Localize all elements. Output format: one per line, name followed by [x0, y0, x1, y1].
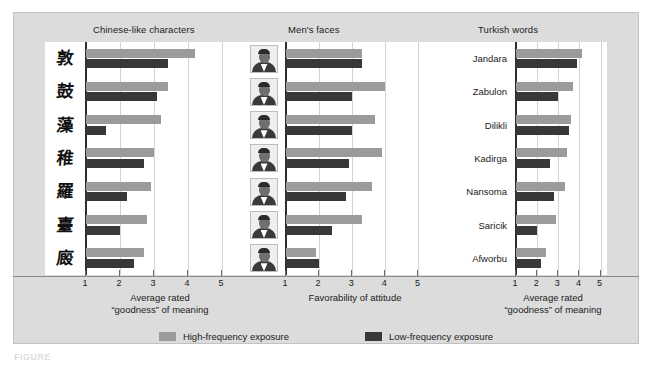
x-tick-label-turkish-5: 5: [597, 278, 602, 288]
mens-face-photo-4: [241, 142, 285, 175]
chinese-character-3: 藻: [45, 109, 85, 142]
chinese-character-glyph-icon: 臺: [44, 217, 86, 234]
bar-chinese-1-low: [86, 59, 168, 68]
chinese-character-glyph-icon: 廄: [44, 250, 86, 267]
category-label-nansoma: Nansoma: [437, 175, 515, 208]
x-tick-chinese-3: [153, 270, 154, 276]
bar-faces-2-low: [286, 92, 352, 101]
x-tick-label-faces-2: 2: [316, 278, 321, 288]
face-portrait-icon: [250, 45, 278, 73]
x-tick-label-turkish-4: 4: [576, 278, 581, 288]
bar-faces-5-high: [286, 182, 372, 191]
chinese-character-glyph-icon: 鼓: [44, 83, 86, 100]
x-tick-label-turkish-2: 2: [534, 278, 539, 288]
x-tick-turkish-3: [557, 270, 558, 276]
panel-title-chinese: Chinese-like characters: [93, 24, 195, 35]
mens-face-photo-2: [241, 75, 285, 108]
category-column-turkish: JandaraZabulonDilikliKadirgaNansomaSaric…: [437, 42, 515, 275]
turkish-word-label: Afworbu: [437, 253, 515, 264]
bar-chinese-6-low: [86, 226, 120, 235]
bar-chinese-1-high: [86, 49, 195, 58]
bar-group: [286, 42, 429, 75]
axis-caption-chinese: Average rated “goodness” of meaning: [111, 292, 208, 316]
bar-chinese-5-low: [86, 192, 127, 201]
category-label-kadirga: Kadirga: [437, 142, 515, 175]
axis-caption-turkish-line2: “goodness” of meaning: [504, 304, 601, 316]
face-portrait-icon: [250, 78, 278, 106]
figure-root: Chinese-like characters Men's faces Turk…: [0, 0, 653, 369]
bar-chinese-4-low: [86, 159, 144, 168]
x-tick-faces-2: [318, 270, 319, 276]
x-tick-turkish-2: [536, 270, 537, 276]
bar-turkish-1-low: [516, 59, 577, 68]
bar-group: [86, 42, 233, 75]
legend-item-low: Low-frequency exposure: [365, 331, 493, 342]
x-axis-line: [13, 276, 639, 277]
bar-chinese-7-low: [86, 259, 134, 268]
x-tick-label-chinese-1: 1: [82, 278, 87, 288]
bar-faces-6-low: [286, 226, 332, 235]
bar-chinese-2-high: [86, 82, 168, 91]
panel-title-faces: Men's faces: [288, 24, 340, 35]
bar-turkish-3-high: [516, 115, 571, 124]
bars-area-faces: [285, 42, 429, 275]
axis-caption-chinese-line1: Average rated: [111, 292, 208, 304]
face-portrait-icon: [250, 211, 278, 239]
bar-group: [516, 75, 607, 108]
turkish-word-label: Kadirga: [437, 153, 515, 164]
turkish-word-label: Jandara: [437, 53, 515, 64]
chinese-character-6: 臺: [45, 208, 85, 241]
panel-title-turkish: Turkish words: [478, 24, 538, 35]
legend-item-high: High-frequency exposure: [159, 331, 289, 342]
face-portrait-icon: [250, 178, 278, 206]
bar-group: [86, 142, 233, 175]
legend-swatch-high: [159, 332, 176, 341]
face-portrait-icon: [250, 111, 278, 139]
bar-group: [286, 142, 429, 175]
bar-group: [86, 175, 233, 208]
bars-area-turkish: [515, 42, 607, 275]
chinese-character-glyph-icon: 羅: [44, 183, 86, 200]
bar-faces-1-low: [286, 59, 362, 68]
face-portrait-icon: [250, 144, 278, 172]
bar-chinese-7-high: [86, 248, 144, 257]
x-tick-label-chinese-5: 5: [219, 278, 224, 288]
mens-face-photo-1: [241, 42, 285, 75]
mens-face-photo-5: [241, 175, 285, 208]
bar-turkish-4-high: [516, 148, 567, 157]
category-label-saricik: Saricik: [437, 208, 515, 241]
chinese-character-7: 廄: [45, 242, 85, 275]
bar-group: [516, 109, 607, 142]
x-tick-faces-4: [384, 270, 385, 276]
x-tick-faces-1: [285, 270, 286, 276]
turkish-word-label: Dilikli: [437, 120, 515, 131]
x-tick-faces-3: [351, 270, 352, 276]
bar-group: [286, 75, 429, 108]
bar-faces-6-high: [286, 215, 362, 224]
figure-caption: FIGURE: [14, 352, 51, 362]
category-label-zabulon: Zabulon: [437, 75, 515, 108]
x-tick-label-turkish-1: 1: [512, 278, 517, 288]
bar-group: [86, 242, 233, 275]
bar-group: [516, 208, 607, 241]
legend-label-high: High-frequency exposure: [183, 331, 289, 342]
subplot-chinese: 敦鼓藻稚羅臺廄: [45, 42, 233, 275]
bar-group: [516, 175, 607, 208]
turkish-word-label: Nansoma: [437, 186, 515, 197]
turkish-word-label: Saricik: [437, 220, 515, 231]
x-tick-label-chinese-2: 2: [117, 278, 122, 288]
bar-faces-1-high: [286, 49, 362, 58]
bar-faces-4-high: [286, 148, 382, 157]
bar-group: [286, 242, 429, 275]
x-tick-chinese-5: [221, 270, 222, 276]
mens-face-photo-3: [241, 109, 285, 142]
x-tick-label-faces-1: 1: [282, 278, 287, 288]
x-tick-turkish-5: [600, 270, 601, 276]
chinese-character-glyph-icon: 稚: [44, 150, 86, 167]
subplot-turkish: JandaraZabulonDilikliKadirgaNansomaSaric…: [437, 42, 607, 275]
legend-label-low: Low-frequency exposure: [389, 331, 493, 342]
x-tick-label-chinese-4: 4: [185, 278, 190, 288]
axis-caption-chinese-line2: “goodness” of meaning: [111, 304, 208, 316]
x-tick-label-turkish-3: 3: [555, 278, 560, 288]
bar-faces-3-low: [286, 126, 352, 135]
